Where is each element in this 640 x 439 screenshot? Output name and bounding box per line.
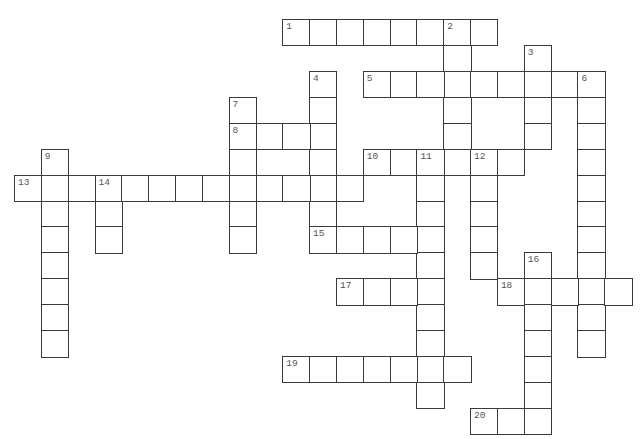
crossword-cell[interactable]: 14 [95,175,123,202]
crossword-cell[interactable] [363,226,391,253]
crossword-cell[interactable] [497,408,525,435]
crossword-cell[interactable] [148,175,176,202]
crossword-cell[interactable] [604,278,632,305]
crossword-cell[interactable]: 18 [497,278,525,305]
crossword-cell[interactable]: 15 [309,226,337,253]
crossword-cell[interactable] [470,226,498,253]
crossword-cell[interactable] [577,304,605,331]
crossword-cell[interactable] [577,97,605,124]
crossword-cell[interactable]: 20 [470,408,498,435]
crossword-cell[interactable] [41,252,69,279]
crossword-cell[interactable] [416,278,444,305]
crossword-cell[interactable] [390,226,418,253]
crossword-cell[interactable] [363,19,391,46]
crossword-cell[interactable] [524,382,552,409]
crossword-cell[interactable] [577,123,605,150]
crossword-cell[interactable] [390,19,418,46]
crossword-cell[interactable] [443,149,471,176]
crossword-cell[interactable] [95,201,123,228]
crossword-cell[interactable] [416,356,444,383]
crossword-cell[interactable]: 12 [470,149,498,176]
crossword-cell[interactable] [336,19,364,46]
crossword-cell[interactable] [577,175,605,202]
crossword-cell[interactable] [577,226,605,253]
crossword-cell[interactable]: 6 [577,71,605,98]
crossword-cell[interactable] [443,71,471,98]
crossword-cell[interactable]: 13 [14,175,42,202]
crossword-cell[interactable] [470,175,498,202]
crossword-cell[interactable] [309,149,337,176]
crossword-cell[interactable] [229,149,257,176]
crossword-cell[interactable] [336,226,364,253]
crossword-cell[interactable] [256,123,284,150]
crossword-cell[interactable] [416,19,444,46]
crossword-cell[interactable] [524,278,552,305]
crossword-cell[interactable] [551,71,579,98]
crossword-cell[interactable] [416,382,444,409]
crossword-cell[interactable]: 1 [282,19,310,46]
crossword-cell[interactable] [68,175,96,202]
crossword-cell[interactable]: 3 [524,45,552,72]
crossword-cell[interactable] [41,304,69,331]
crossword-cell[interactable] [363,278,391,305]
crossword-cell[interactable] [202,175,230,202]
crossword-cell[interactable] [41,226,69,253]
crossword-cell[interactable] [577,201,605,228]
crossword-cell[interactable]: 10 [363,149,391,176]
crossword-cell[interactable] [390,149,418,176]
crossword-cell[interactable] [416,226,444,253]
crossword-cell[interactable] [309,19,337,46]
crossword-cell[interactable] [524,408,552,435]
crossword-cell[interactable]: 4 [309,71,337,98]
crossword-cell[interactable]: 5 [363,71,391,98]
crossword-cell[interactable] [41,201,69,228]
crossword-cell[interactable] [41,330,69,357]
crossword-cell[interactable] [470,19,498,46]
crossword-cell[interactable] [497,149,525,176]
crossword-cell[interactable] [336,356,364,383]
crossword-cell[interactable] [524,356,552,383]
crossword-cell[interactable] [390,356,418,383]
crossword-cell[interactable] [390,278,418,305]
crossword-cell[interactable]: 7 [229,97,257,124]
crossword-cell[interactable] [229,226,257,253]
crossword-cell[interactable] [443,123,471,150]
crossword-cell[interactable]: 8 [229,123,257,150]
crossword-cell[interactable] [416,304,444,331]
crossword-cell[interactable] [336,175,364,202]
crossword-cell[interactable] [256,175,284,202]
crossword-cell[interactable] [470,201,498,228]
crossword-cell[interactable] [390,71,418,98]
crossword-cell[interactable] [229,201,257,228]
crossword-cell[interactable] [95,226,123,253]
crossword-cell[interactable] [577,252,605,279]
crossword-cell[interactable] [309,175,337,202]
crossword-cell[interactable] [577,278,605,305]
crossword-cell[interactable] [416,71,444,98]
crossword-cell[interactable] [443,97,471,124]
crossword-cell[interactable]: 11 [416,149,444,176]
crossword-cell[interactable] [551,278,579,305]
crossword-cell[interactable] [524,71,552,98]
crossword-cell[interactable] [309,97,337,124]
crossword-cell[interactable] [229,175,257,202]
crossword-cell[interactable]: 19 [282,356,310,383]
crossword-cell[interactable] [309,356,337,383]
crossword-cell[interactable] [282,175,310,202]
crossword-cell[interactable] [363,356,391,383]
crossword-cell[interactable] [577,149,605,176]
crossword-cell[interactable] [309,123,337,150]
crossword-cell[interactable] [416,252,444,279]
crossword-cell[interactable] [524,330,552,357]
crossword-cell[interactable] [524,304,552,331]
crossword-cell[interactable]: 2 [443,19,471,46]
crossword-cell[interactable] [470,71,498,98]
crossword-cell[interactable] [175,175,203,202]
crossword-cell[interactable]: 17 [336,278,364,305]
crossword-cell[interactable] [41,175,69,202]
crossword-cell[interactable] [524,123,552,150]
crossword-cell[interactable] [416,201,444,228]
crossword-cell[interactable] [443,356,471,383]
crossword-cell[interactable] [524,97,552,124]
crossword-cell[interactable] [416,330,444,357]
